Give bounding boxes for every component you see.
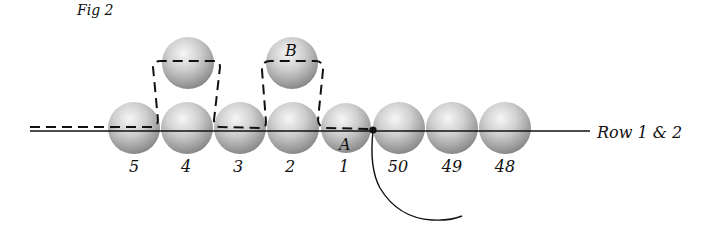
bead-number-labels: 5 4 3 2 1 50 49 48 [129, 157, 515, 176]
bead-4 [161, 102, 213, 154]
bead-top-above-4 [162, 37, 214, 89]
bead-50 [373, 102, 425, 154]
bead-2 [267, 102, 319, 154]
label-b: B [284, 41, 297, 60]
bead-label-49: 49 [441, 157, 462, 176]
bead-diagram: A B 5 4 3 2 1 50 49 48 Row 1 & 2 [0, 0, 721, 230]
row-label: Row 1 & 2 [596, 123, 682, 142]
bead-label-2: 2 [284, 157, 295, 176]
bead-48 [479, 102, 531, 154]
bead-label-50: 50 [388, 157, 408, 176]
bead-label-48: 48 [494, 157, 515, 176]
bead-label-1: 1 [339, 157, 349, 176]
bead-label-5: 5 [129, 157, 139, 176]
bead-label-3: 3 [233, 157, 243, 176]
bead-label-4: 4 [180, 157, 191, 176]
bead-49 [426, 102, 478, 154]
label-a: A [337, 135, 351, 154]
